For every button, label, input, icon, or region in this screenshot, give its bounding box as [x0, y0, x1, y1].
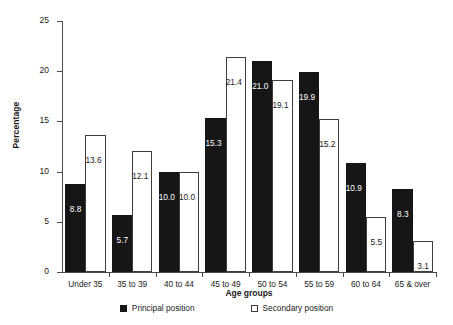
y-axis-tick: 25 [57, 21, 62, 22]
legend-swatch-icon [120, 305, 127, 312]
y-axis-title: Percentage [11, 75, 21, 175]
legend-label: Principal position [132, 303, 195, 313]
x-axis-tick [436, 272, 437, 277]
bar-secondary: 19.1 [272, 80, 292, 272]
y-axis-tick-label: 20 [40, 65, 49, 75]
bar-principal: 10.9 [346, 163, 366, 272]
legend-label: Secondary position [263, 303, 334, 313]
y-axis-tick: 10 [57, 172, 62, 173]
bar-principal: 19.9 [299, 72, 319, 272]
bar-value-label: 21.4 [226, 78, 242, 86]
x-axis-tick [343, 272, 344, 277]
bar-secondary: 12.1 [132, 151, 152, 272]
x-axis-tick [296, 272, 297, 277]
bar-value-label: 10.9 [346, 184, 362, 192]
y-axis-tick: 5 [57, 222, 62, 223]
x-axis-tick [156, 272, 157, 277]
y-axis-tick: 0 [57, 272, 62, 273]
bar-secondary: 21.4 [226, 57, 246, 272]
bar-value-label: 10.0 [179, 193, 195, 201]
y-axis-tick-label: 15 [40, 115, 49, 125]
bar-secondary: 15.2 [319, 119, 339, 272]
y-axis-tick: 20 [57, 71, 62, 72]
bar-value-label: 21.0 [252, 82, 268, 90]
y-axis-tick-label: 0 [44, 266, 49, 276]
y-axis-line [62, 21, 63, 272]
bar-secondary: 3.1 [413, 241, 433, 272]
bar-secondary: 13.6 [85, 135, 105, 272]
legend-item-secondary[interactable]: Secondary position [251, 303, 334, 313]
bar-value-label: 5.5 [371, 238, 383, 246]
bar-value-label: 15.3 [205, 139, 221, 147]
bar-value-label: 8.3 [397, 210, 409, 218]
bar-chart: Percentage 05101520258.813.6Under 355.71… [0, 0, 453, 325]
y-axis-tick: 15 [57, 121, 62, 122]
legend-item-principal[interactable]: Principal position [120, 303, 195, 313]
bar-value-label: 5.7 [117, 236, 129, 244]
x-axis-tick [249, 272, 250, 277]
plot-area: 05101520258.813.6Under 355.712.135 to 39… [62, 21, 436, 272]
bar-principal: 10.0 [159, 172, 179, 272]
bar-value-label: 10.0 [159, 193, 175, 201]
bar-secondary: 10.0 [179, 172, 199, 272]
y-axis-tick-label: 25 [40, 15, 49, 25]
chart-legend: Principal positionSecondary position [0, 303, 453, 313]
bar-value-label: 19.9 [299, 93, 315, 101]
bar-principal: 8.3 [392, 189, 412, 272]
bar-value-label: 8.8 [70, 205, 82, 213]
legend-swatch-icon [251, 305, 258, 312]
bar-value-label: 13.6 [85, 156, 101, 164]
bar-principal: 21.0 [252, 61, 272, 272]
bar-principal: 15.3 [205, 118, 225, 272]
bar-principal: 8.8 [65, 184, 85, 272]
y-axis-tick-label: 5 [44, 216, 49, 226]
x-axis-title: Age groups [62, 288, 436, 298]
bar-value-label: 19.1 [272, 101, 288, 109]
y-axis-tick-label: 10 [40, 166, 49, 176]
bar-secondary: 5.5 [366, 217, 386, 272]
bar-value-label: 3.1 [417, 262, 429, 270]
bar-principal: 5.7 [112, 215, 132, 272]
x-axis-tick [202, 272, 203, 277]
x-axis-tick [389, 272, 390, 277]
x-axis-tick [109, 272, 110, 277]
bar-value-label: 15.2 [319, 140, 335, 148]
bar-value-label: 12.1 [132, 172, 148, 180]
